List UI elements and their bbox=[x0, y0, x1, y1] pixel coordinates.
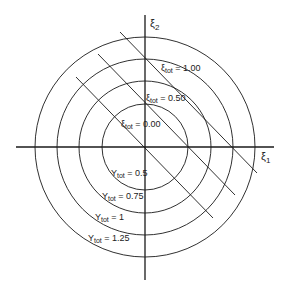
label-xitot-0-00: ξtot = 0.00 bbox=[121, 119, 161, 130]
label-ytot-0-75: Ytot = 0.75 bbox=[102, 191, 144, 202]
diagram-canvas: ξ2 ξ1 ξtot = 1.00 ξtot = 0.50 ξtot = 0.0… bbox=[0, 0, 287, 290]
label-ytot-1: Ytot = 1 bbox=[95, 212, 124, 223]
label-ytot-0-5: Ytot = 0.5 bbox=[111, 168, 148, 179]
label-xitot-1-00: ξtot = 1.00 bbox=[161, 63, 201, 74]
label-ytot-1-25: Ytot = 1.25 bbox=[88, 233, 130, 244]
y-axis-label: ξ2 bbox=[150, 17, 160, 32]
label-xitot-0-50: ξtot = 0.50 bbox=[146, 93, 186, 104]
x-axis-label: ξ1 bbox=[261, 150, 271, 165]
line-xitot-1-00 bbox=[120, 32, 257, 173]
contour-diagram: ξ2 ξ1 ξtot = 1.00 ξtot = 0.50 ξtot = 0.0… bbox=[0, 0, 287, 290]
